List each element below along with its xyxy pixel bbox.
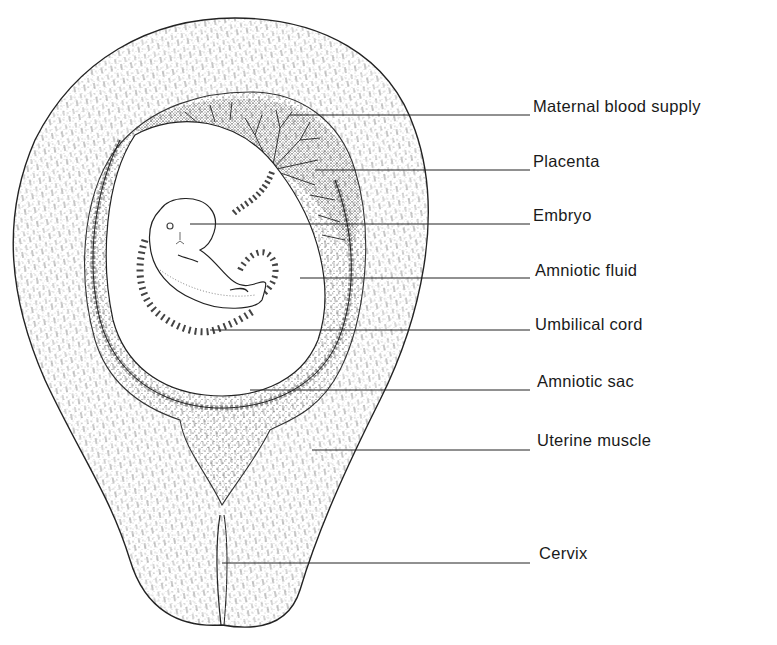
label-amniotic-fluid: Amniotic fluid (535, 262, 637, 279)
label-placenta: Placenta (533, 153, 600, 170)
label-maternal-blood-supply: Maternal blood supply (533, 98, 701, 115)
label-amniotic-sac: Amniotic sac (537, 373, 634, 390)
label-embryo: Embryo (533, 207, 592, 224)
label-umbilical-cord: Umbilical cord (535, 316, 643, 333)
label-cervix: Cervix (539, 545, 588, 562)
label-uterine-muscle: Uterine muscle (537, 432, 651, 449)
